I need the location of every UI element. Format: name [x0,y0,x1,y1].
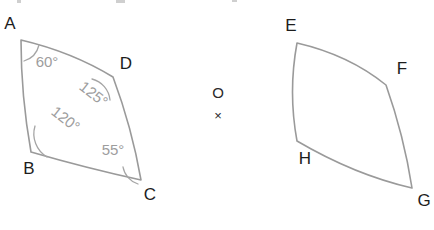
vertex-label-a: A [4,14,16,33]
vertex-label-d: D [120,54,132,73]
top-edge-fleck [116,0,125,3]
circle-marker: O [212,84,224,101]
vertex-label-h: H [299,149,311,168]
vertex-label-e: E [285,16,296,35]
angle-label-b: 120° [48,103,83,136]
top-edge-fleck [232,0,237,2]
angle-label-d: 125° [76,78,111,111]
right-figure-group: E F G H [285,16,430,210]
center-markers-group: O × [212,84,224,123]
vertex-label-b: B [23,159,34,178]
vertex-label-f: F [397,59,407,78]
angle-arc-c [123,167,138,184]
figure-canvas: A D C B 60° 125° 120° 55° O × E F G H [0,0,434,230]
left-figure-group: A D C B 60° 125° 120° 55° [4,14,156,204]
angle-label-c: 55° [102,141,125,158]
cross-marker: × [214,108,222,123]
geometry-diagram: A D C B 60° 125° 120° 55° O × E F G H [0,0,434,230]
vertex-label-g: G [417,191,430,210]
angle-label-a: 60° [36,53,59,70]
top-edge-fleck [17,0,21,3]
vertex-label-c: C [144,185,156,204]
angle-arc-b [34,126,47,157]
